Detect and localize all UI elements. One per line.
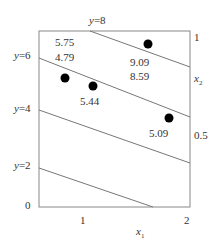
- y-axis-title: x2: [194, 73, 202, 87]
- y-tick-0-5: 0.5: [194, 130, 208, 141]
- contour-label-y6: y=6: [14, 50, 31, 61]
- contour-label-y8: y=8: [89, 15, 106, 26]
- data-point-2: [89, 82, 98, 91]
- data-point-3: [144, 40, 153, 49]
- value-label-8-59: 8.59: [130, 71, 149, 82]
- value-label-5-09: 5.09: [149, 128, 168, 139]
- x-tick-1: 1: [80, 215, 86, 226]
- value-label-9-09: 9.09: [130, 57, 149, 68]
- contour-line-y2: [39, 168, 153, 207]
- data-point-4: [165, 114, 174, 123]
- contour-diagram: y=8 y=6 y=4 y=2 5.75 4.79 9.09 8.59 5.44…: [0, 0, 214, 240]
- origin-label: 0: [25, 200, 31, 211]
- value-label-4-79: 4.79: [55, 52, 74, 63]
- contour-label-y2: y=2: [14, 160, 31, 171]
- data-point-1: [61, 74, 70, 83]
- value-label-5-75: 5.75: [55, 37, 74, 48]
- value-label-5-44: 5.44: [80, 96, 99, 107]
- contour-label-y4: y=4: [14, 103, 31, 114]
- contour-line-y6: [39, 58, 190, 117]
- x-tick-2: 2: [184, 215, 190, 226]
- x-axis-title: x1: [136, 226, 144, 240]
- plot-area: [0, 0, 214, 240]
- y-tick-1: 1: [194, 32, 200, 43]
